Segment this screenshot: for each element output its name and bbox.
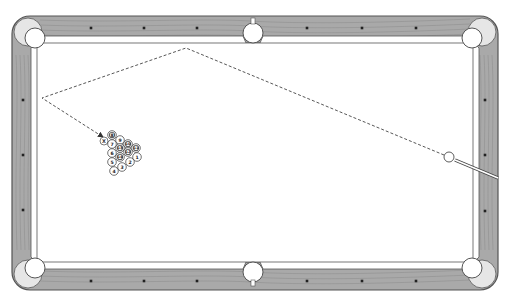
svg-text:3: 3 [120,165,123,170]
diamond-marker [22,154,25,157]
svg-text:7: 7 [110,142,113,147]
center-pocket-tab [251,280,255,286]
cue-ball [444,152,454,162]
diamond-marker [22,209,25,212]
ghost-ball-label: X [102,138,106,144]
pocket-top-right [462,28,482,48]
playing-surface [31,36,479,269]
svg-text:1: 1 [135,155,138,160]
ball-4: 4 [110,167,119,176]
ball-6: 6 [108,149,117,158]
diamond-marker [415,280,418,283]
pocket-top-center [243,23,263,43]
diamond-marker [361,27,364,30]
svg-text:2: 2 [128,160,131,165]
diamond-marker [484,99,487,102]
pocket-bottom-center [243,262,263,282]
pocket-bottom-left [25,258,45,278]
pocket-bottom-right [462,258,482,278]
pocket-top-left [25,28,45,48]
diamond-marker [90,280,93,283]
diamond-marker [143,27,146,30]
diamond-marker [306,27,309,30]
ball-3: 3 [118,163,127,172]
svg-text:14: 14 [117,155,123,159]
ball-7: 7 [108,140,117,149]
ball-12: 12 [124,148,133,157]
ball-14: 14 [116,153,125,162]
ball-1: 1 [133,153,142,162]
svg-text:4: 4 [112,169,115,174]
diamond-marker [196,27,199,30]
diamond-marker [484,154,487,157]
svg-text:5: 5 [110,160,113,165]
diamond-marker [196,280,199,283]
ball-10: 10 [124,140,133,149]
diamond-marker [22,99,25,102]
diamond-marker [484,210,487,213]
diamond-marker [306,280,309,283]
diamond-marker [415,27,418,30]
svg-text:8: 8 [110,133,113,138]
svg-text:13: 13 [117,146,123,150]
diamond-marker [143,280,146,283]
diamond-marker [361,280,364,283]
center-pocket-tab [251,18,255,24]
ball-5: 5 [108,158,117,167]
svg-text:6: 6 [110,151,113,156]
ball-11: 11 [132,144,141,153]
table-canvas: X 8796131051412114321 [0,0,510,305]
ball-13: 13 [116,144,125,153]
ball-8: 8 [108,131,117,140]
felt-bed [37,43,473,262]
svg-text:12: 12 [125,150,131,154]
ball-9: 9 [116,136,125,145]
diamond-marker [90,27,93,30]
svg-text:9: 9 [118,138,121,143]
svg-text:10: 10 [125,142,131,146]
svg-text:11: 11 [133,146,139,150]
pool-table-diagram: X 8796131051412114321 [0,0,510,305]
